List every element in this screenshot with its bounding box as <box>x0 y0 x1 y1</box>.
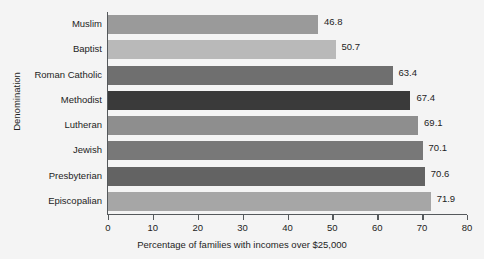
category-label: Muslim <box>0 18 102 29</box>
x-axis-tick-label: 10 <box>148 222 159 233</box>
bar-row: 69.1 <box>108 113 467 138</box>
bar-row: 46.8 <box>108 12 467 37</box>
x-axis-tick <box>198 215 199 220</box>
x-axis-tick-label: 80 <box>462 222 473 233</box>
x-axis-tick-label: 0 <box>105 222 110 233</box>
y-axis-title: Denomination <box>11 42 22 162</box>
bar[interactable] <box>108 167 425 186</box>
x-axis-tick <box>332 215 333 220</box>
bar[interactable] <box>108 116 418 135</box>
bar-value-label: 71.9 <box>437 193 456 204</box>
x-axis-tick <box>153 215 154 220</box>
x-axis-tick-label: 60 <box>372 222 383 233</box>
bar-value-label: 70.1 <box>429 142 448 153</box>
bar-value-label: 50.7 <box>342 41 361 52</box>
bar-value-label: 67.4 <box>416 92 435 103</box>
x-axis-tick <box>377 215 378 220</box>
bar-row: 70.6 <box>108 164 467 189</box>
bar-row: 63.4 <box>108 63 467 88</box>
bar-value-label: 70.6 <box>431 168 450 179</box>
x-axis-tick-label: 30 <box>237 222 248 233</box>
x-axis-tick-label: 40 <box>282 222 293 233</box>
bar[interactable] <box>108 66 393 85</box>
bar[interactable] <box>108 141 423 160</box>
bar-chart: 46.850.763.467.469.170.170.671.9 MuslimB… <box>0 0 484 259</box>
bar[interactable] <box>108 192 431 211</box>
x-axis-tick-label: 20 <box>192 222 203 233</box>
x-axis-tick <box>422 215 423 220</box>
x-axis-tick <box>243 215 244 220</box>
bar-value-label: 63.4 <box>399 67 418 78</box>
bar[interactable] <box>108 40 336 59</box>
x-axis-tick-label: 50 <box>327 222 338 233</box>
bar-row: 67.4 <box>108 88 467 113</box>
bar-value-label: 69.1 <box>424 117 443 128</box>
bar[interactable] <box>108 91 410 110</box>
x-axis-tick <box>288 215 289 220</box>
x-axis-title: Percentage of families with incomes over… <box>0 239 484 250</box>
x-axis-tick <box>467 215 468 220</box>
category-label: Episcopalian <box>0 195 102 206</box>
category-label: Presbyterian <box>0 170 102 181</box>
bar-row: 71.9 <box>108 189 467 214</box>
bar-value-label: 46.8 <box>324 16 343 27</box>
bar[interactable] <box>108 15 318 34</box>
plot-area: 46.850.763.467.469.170.170.671.9 <box>108 12 467 214</box>
bar-row: 50.7 <box>108 37 467 62</box>
x-axis-tick <box>108 215 109 220</box>
x-axis-tick-label: 70 <box>417 222 428 233</box>
bar-row: 70.1 <box>108 138 467 163</box>
